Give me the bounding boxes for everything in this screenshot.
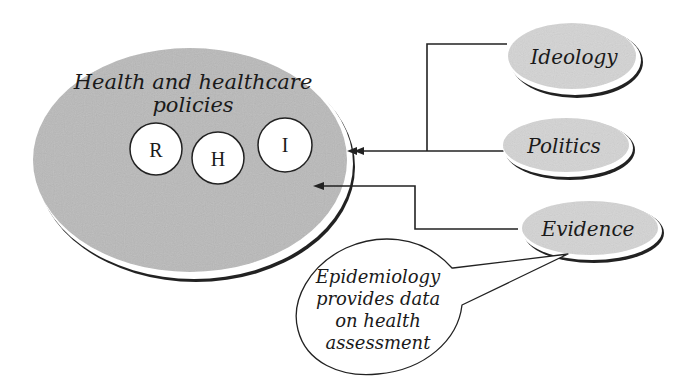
callout-line4: assessment [326,332,432,353]
callout-line2: provides data [316,288,440,309]
policy-diagram: Health and healthcare policies R H I Ide… [0,0,689,383]
circle-i-label: I [282,134,289,156]
ideology-node[interactable]: Ideology [508,23,643,98]
main-title-line1: Health and healthcare [73,70,313,94]
politics-label: Politics [526,134,600,158]
circle-r-label: R [149,139,163,161]
circle-h: H [192,132,244,184]
politics-node[interactable]: Politics [503,118,635,180]
evidence-label: Evidence [541,217,635,241]
circle-r: R [130,123,182,175]
callout-line1: Epidemiology [315,266,441,287]
callout-line3: on health [335,310,421,331]
circle-h-label: H [211,148,225,170]
circle-i: I [258,118,312,172]
ideology-label: Ideology [529,45,618,69]
connector-ideology-politics [354,44,508,151]
evidence-node[interactable]: Evidence [522,201,664,263]
connector-evidence [322,186,518,229]
main-title-line2: policies [152,93,233,117]
